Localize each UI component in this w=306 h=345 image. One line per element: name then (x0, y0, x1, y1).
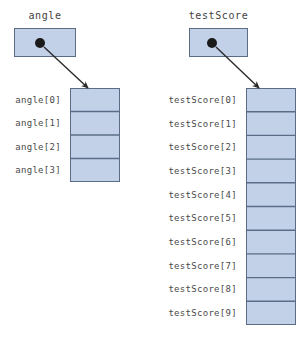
cell-label-testScore-8: testScore[8] (0, 278, 242, 302)
cell-label-testScore-2: testScore[2] (0, 135, 242, 159)
cell-label-testScore-4: testScore[4] (0, 183, 242, 207)
array-pointer-diagram: angle testScore angle[0]angle[1]angle[2]… (0, 0, 306, 345)
cell-label-testScore-1: testScore[1] (0, 112, 242, 136)
cell-label-testScore-5: testScore[5] (0, 207, 242, 231)
pointer-arrow-angle (44, 47, 88, 88)
pointer-arrow-testScore (216, 47, 259, 88)
cell-label-testScore-9: testScore[9] (0, 301, 242, 325)
cell-label-testScore-0: testScore[0] (0, 88, 242, 112)
pointer-dot-testScore (207, 38, 217, 48)
pointer-dot-angle (35, 38, 45, 48)
cell-label-testScore-6: testScore[6] (0, 230, 242, 254)
cell-label-testScore-7: testScore[7] (0, 254, 242, 278)
cell-label-testScore-3: testScore[3] (0, 159, 242, 183)
